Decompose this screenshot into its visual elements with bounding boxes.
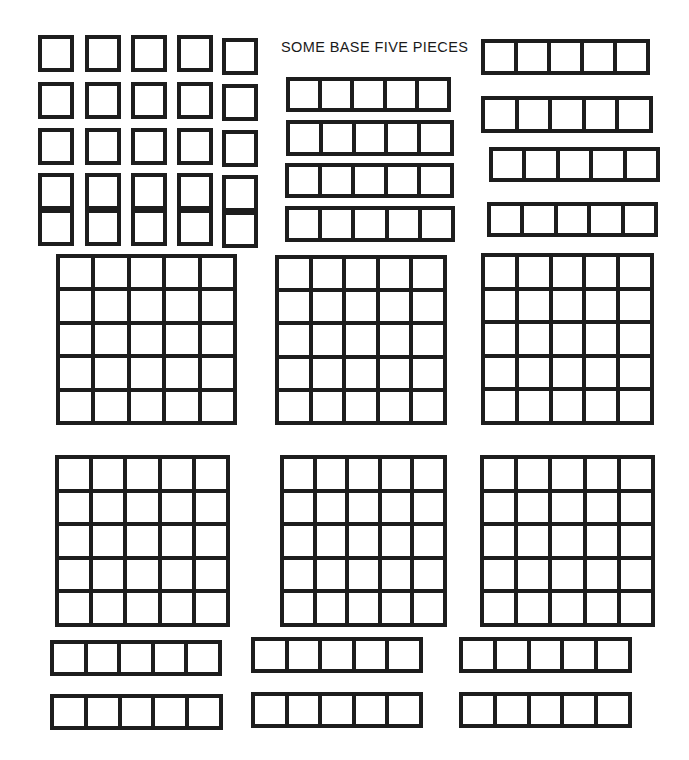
rod-cell: [356, 124, 389, 152]
flat-cell: [413, 259, 443, 288]
flat-cell: [196, 459, 226, 489]
flat-row: [484, 526, 651, 560]
rod-cell: [558, 206, 591, 233]
flat-cell: [587, 526, 621, 556]
rod-cell: [255, 696, 289, 724]
flat-cell: [485, 324, 519, 354]
rod-cell: [121, 644, 155, 672]
rod-cell: [189, 698, 219, 726]
flat-cell: [95, 258, 130, 287]
flat-cell: [620, 291, 650, 321]
flat-cell: [552, 560, 586, 590]
flat-cell: [414, 493, 443, 523]
flat-cell: [484, 593, 518, 623]
rod-cell: [463, 696, 497, 724]
flat-row: [284, 459, 443, 493]
flat-cell: [95, 358, 130, 387]
flat-cell: [519, 358, 553, 388]
flat-cell: [484, 493, 518, 523]
flat-cell: [59, 459, 93, 489]
rod-cell: [322, 696, 356, 724]
flat-cell: [552, 459, 586, 489]
flat-cell: [59, 526, 93, 556]
flat-row: [279, 259, 443, 292]
flat-cell: [95, 291, 130, 320]
flat-cell: [587, 493, 621, 523]
unit-square: [38, 209, 74, 246]
flat-cell: [414, 526, 443, 556]
rod-cell: [591, 206, 624, 233]
rod-cell: [463, 641, 497, 669]
flat-cell: [484, 560, 518, 590]
flat-cell: [60, 325, 95, 354]
rod-cell: [155, 644, 189, 672]
flat-row: [59, 493, 226, 527]
flat-cell: [131, 358, 166, 387]
flat-cell: [127, 526, 161, 556]
flat-cell: [519, 257, 553, 287]
flat-row: [284, 493, 443, 527]
rod-cell: [485, 43, 518, 71]
flat-cell: [382, 493, 415, 523]
rod-cell: [88, 644, 122, 672]
flat-row: [279, 359, 443, 392]
flat-cell: [382, 560, 415, 590]
flat-cell: [518, 560, 552, 590]
flat-cell: [414, 560, 443, 590]
rod-cell: [524, 206, 557, 233]
flat-cell: [380, 292, 414, 321]
rod-piece: [251, 637, 423, 673]
flat-cell: [162, 459, 196, 489]
flat-cell: [413, 392, 443, 421]
flat-cell: [485, 257, 519, 287]
rod-cell: [289, 696, 323, 724]
flat-piece: [55, 455, 230, 627]
flat-cell: [59, 560, 93, 590]
flat-cell: [127, 493, 161, 523]
flat-cell: [621, 593, 651, 623]
rod-cell: [388, 167, 421, 194]
unit-square: [177, 35, 213, 72]
flat-cell: [60, 258, 95, 287]
flat-cell: [60, 358, 95, 387]
flat-cell: [621, 560, 651, 590]
flat-cell: [382, 459, 415, 489]
rod-cell: [155, 698, 189, 726]
rod-cell: [485, 100, 519, 129]
unit-square: [131, 35, 167, 72]
flat-cell: [621, 459, 651, 489]
flat-cell: [127, 593, 161, 623]
flat-cell: [95, 392, 130, 421]
flat-cell: [349, 593, 382, 623]
flat-row: [59, 560, 226, 594]
flat-row: [279, 292, 443, 325]
rod-cell: [564, 696, 598, 724]
flat-cell: [620, 391, 650, 421]
rod-piece: [459, 692, 632, 728]
flat-cell: [518, 493, 552, 523]
flat-cell: [346, 392, 380, 421]
rod-cell: [518, 43, 551, 71]
flat-cell: [279, 325, 313, 354]
flat-cell: [414, 593, 443, 623]
flat-cell: [60, 392, 95, 421]
flat-cell: [346, 292, 380, 321]
flat-row: [60, 291, 233, 324]
flat-cell: [485, 291, 519, 321]
flat-cell: [552, 526, 586, 556]
rod-cell: [584, 43, 617, 71]
flat-cell: [587, 593, 621, 623]
rod-cell: [627, 151, 656, 178]
rod-cell: [356, 641, 390, 669]
flat-cell: [518, 459, 552, 489]
rod-cell: [388, 124, 421, 152]
flat-cell: [284, 526, 317, 556]
rod-piece: [459, 637, 632, 673]
flat-cell: [93, 493, 127, 523]
flat-cell: [59, 493, 93, 523]
flat-cell: [131, 392, 166, 421]
flat-cell: [284, 493, 317, 523]
flat-row: [484, 593, 651, 623]
flat-piece: [480, 455, 655, 627]
flat-cell: [518, 526, 552, 556]
